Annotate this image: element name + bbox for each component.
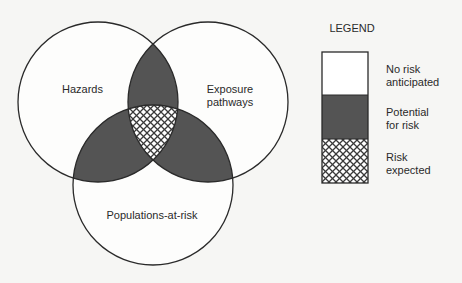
legend-item-no-risk: No risk anticipated <box>386 63 439 89</box>
hazards-label: Hazards <box>62 83 103 96</box>
legend-item-line1: Potential <box>386 106 429 119</box>
legend-title: LEGEND <box>329 22 374 35</box>
legend-item-risk-expected: Risk expected <box>386 151 431 177</box>
legend-swatch-potential <box>322 95 368 139</box>
legend-item-line2: expected <box>386 164 431 177</box>
legend-item-line2: anticipated <box>386 76 439 89</box>
exposure-pathways-label: Exposure pathways <box>207 83 253 109</box>
legend-swatch-stack <box>322 52 368 183</box>
exposure-label-line2: pathways <box>207 96 253 109</box>
exposure-label-line1: Exposure <box>207 83 253 96</box>
legend-item-line1: No risk <box>386 63 439 76</box>
legend-item-line1: Risk <box>386 151 431 164</box>
legend-item-line2: for risk <box>386 119 429 132</box>
legend-swatch-expected <box>322 139 368 183</box>
venn-diagram-figure: Hazards Exposure pathways Populations-at… <box>0 0 462 283</box>
legend-item-potential-for-risk: Potential for risk <box>386 106 429 132</box>
legend-swatch-no-risk <box>322 52 368 95</box>
populations-at-risk-label: Populations-at-risk <box>106 209 197 222</box>
venn-diagram-graphic <box>0 0 462 283</box>
